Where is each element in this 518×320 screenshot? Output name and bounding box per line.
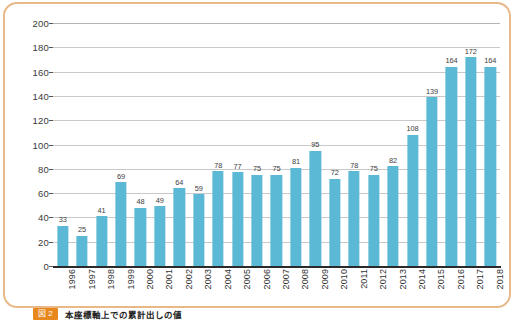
bar-value-label: 139 [426,87,438,96]
x-axis-tick-label: 1999 [126,269,136,289]
x-axis-line [53,266,501,268]
bar-slot: 25 [72,23,91,266]
bar-value-label: 64 [175,178,183,187]
bar[interactable] [368,175,379,266]
bar-value-label: 25 [78,225,86,234]
bar-slot: 59 [189,23,208,266]
y-axis-tick-label: 180 [7,42,49,53]
y-axis-tick-label: 120 [7,115,49,126]
bar-value-label: 78 [214,161,222,170]
bar-slot: 164 [481,23,500,266]
bar-slot: 64 [170,23,189,266]
x-axis-tick-label: 2002 [184,269,194,289]
bar[interactable] [232,172,243,266]
bar-value-label: 33 [59,215,67,224]
bar-value-label: 78 [350,161,358,170]
bar-value-label: 75 [253,164,261,173]
bar-value-label: 59 [195,184,203,193]
figure-frame: 200180160140120100806040200 332541694849… [3,2,511,308]
bar[interactable] [387,166,398,266]
x-axis-tick-label: 2016 [456,269,466,289]
bar-slot: 49 [150,23,169,266]
figure-caption: 図 2 本座標軸上での累計出しの値 [33,308,495,320]
y-axis-tick-label: 0 [7,261,49,272]
bar-slot: 172 [461,23,480,266]
bar-slot: 95 [306,23,325,266]
bar[interactable] [174,188,185,266]
y-axis-tick-label: 40 [7,212,49,223]
bar-slot: 48 [131,23,150,266]
bar[interactable] [76,236,87,266]
caption-badge: 図 2 [33,308,58,320]
bar-value-label: 81 [292,157,300,166]
x-axis-tick-label: 1998 [106,269,116,289]
bar-slot: 77 [228,23,247,266]
bar[interactable] [465,57,476,266]
caption-text: 本座標軸上での累計出しの値 [65,308,182,320]
bar-value-label: 164 [484,56,496,65]
bar[interactable] [426,97,437,266]
x-axis-tick-label: 2010 [339,269,349,289]
bar-slot: 78 [345,23,364,266]
bar[interactable] [349,171,360,266]
bar-slot: 164 [442,23,461,266]
bar[interactable] [251,175,262,266]
bar[interactable] [57,226,68,266]
bar-value-label: 75 [272,164,280,173]
bar-slot: 69 [111,23,130,266]
bar-value-label: 82 [389,156,397,165]
bar[interactable] [310,151,321,266]
bar-slot: 75 [364,23,383,266]
x-axis-tick-label: 2011 [359,269,369,289]
bar[interactable] [213,171,224,266]
bar-value-label: 49 [156,196,164,205]
bar-value-label: 75 [370,164,378,173]
bar-value-label: 108 [407,124,419,133]
x-axis-tick-label: 2009 [320,269,330,289]
bar-value-label: 77 [234,162,242,171]
bar-slot: 139 [422,23,441,266]
x-axis-labels: 1996199719981999200020012002200320042005… [53,269,500,309]
x-axis-tick-label: 2000 [145,269,155,289]
bar-value-label: 48 [136,197,144,206]
x-axis-tick-label: 2007 [281,269,291,289]
bar[interactable] [96,216,107,266]
bar[interactable] [115,182,126,266]
y-axis-tick-label: 100 [7,139,49,150]
x-axis-tick-label: 2012 [378,269,388,289]
bar[interactable] [135,208,146,266]
bar-slot: 41 [92,23,111,266]
y-axis-ticks: 200180160140120100806040200 [5,4,49,320]
bar[interactable] [290,168,301,266]
y-axis-tick-label: 160 [7,66,49,77]
bar-slot: 81 [286,23,305,266]
x-axis-tick-label: 2013 [398,269,408,289]
x-axis-tick-label: 2018 [495,269,505,289]
x-axis-tick-label: 2003 [203,269,213,289]
bar[interactable] [329,179,340,266]
bar-value-label: 69 [117,172,125,181]
bar-slot: 82 [383,23,402,266]
x-axis-tick-label: 1996 [67,269,77,289]
x-axis-tick-label: 2015 [436,269,446,289]
bar[interactable] [193,194,204,266]
bar[interactable] [446,67,457,266]
bar-slot: 75 [267,23,286,266]
bar-value-label: 164 [445,56,457,65]
plot-area: 3325416948496459787775758195727875821081… [53,23,500,266]
bar-value-label: 95 [311,140,319,149]
bar[interactable] [407,135,418,266]
x-axis-tick-label: 2006 [262,269,272,289]
x-axis-tick-label: 2008 [300,269,310,289]
bar-value-label: 41 [98,206,106,215]
bar-slot: 75 [247,23,266,266]
bar[interactable] [485,67,496,266]
bar-slot: 108 [403,23,422,266]
x-axis-tick-label: 2001 [164,269,174,289]
y-axis-tick-label: 200 [7,18,49,29]
bar[interactable] [154,206,165,266]
bar-slot: 78 [208,23,227,266]
bar[interactable] [271,175,282,266]
bar-value-label: 72 [331,168,339,177]
